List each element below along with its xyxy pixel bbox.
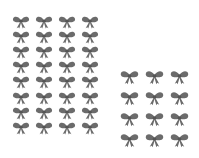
bow-icon	[11, 60, 31, 75]
bow-icon	[11, 75, 31, 90]
bow-icon	[119, 87, 140, 108]
bow-icon	[169, 87, 190, 108]
bow-icon	[80, 120, 100, 135]
bow-group-left	[11, 14, 100, 136]
bow-icon	[34, 14, 54, 29]
bow-icon	[34, 44, 54, 59]
bow-icon	[80, 44, 100, 59]
bow-icon	[57, 120, 77, 135]
bow-icon	[34, 29, 54, 44]
bow-icon	[57, 29, 77, 44]
bow-icon	[80, 14, 100, 29]
bow-icon	[34, 105, 54, 120]
bow-icon	[169, 108, 190, 129]
bow-icon	[80, 105, 100, 120]
bow-icon	[11, 29, 31, 44]
bow-icon	[11, 14, 31, 29]
bow-icon	[144, 129, 165, 150]
bow-icon	[34, 120, 54, 135]
bow-icon	[169, 129, 190, 150]
bow-icon	[57, 60, 77, 75]
bow-icon	[169, 66, 190, 87]
bow-icon	[80, 60, 100, 75]
bow-group-right	[119, 66, 190, 150]
bow-icon	[11, 44, 31, 59]
bow-icon	[80, 90, 100, 105]
bow-icon	[11, 90, 31, 105]
bow-icon	[144, 108, 165, 129]
bow-icon	[34, 75, 54, 90]
bow-icon	[144, 87, 165, 108]
bow-icon	[80, 75, 100, 90]
bow-icon	[80, 29, 100, 44]
bow-icon	[57, 75, 77, 90]
bow-icon	[57, 44, 77, 59]
bow-icon	[119, 108, 140, 129]
bow-icon	[34, 60, 54, 75]
bow-icon	[119, 129, 140, 150]
bow-icon	[144, 66, 165, 87]
bow-icon	[11, 105, 31, 120]
bow-icon	[34, 90, 54, 105]
bow-icon	[11, 120, 31, 135]
bow-icon	[119, 66, 140, 87]
bow-icon	[57, 14, 77, 29]
bow-icon	[57, 105, 77, 120]
bow-icon	[57, 90, 77, 105]
